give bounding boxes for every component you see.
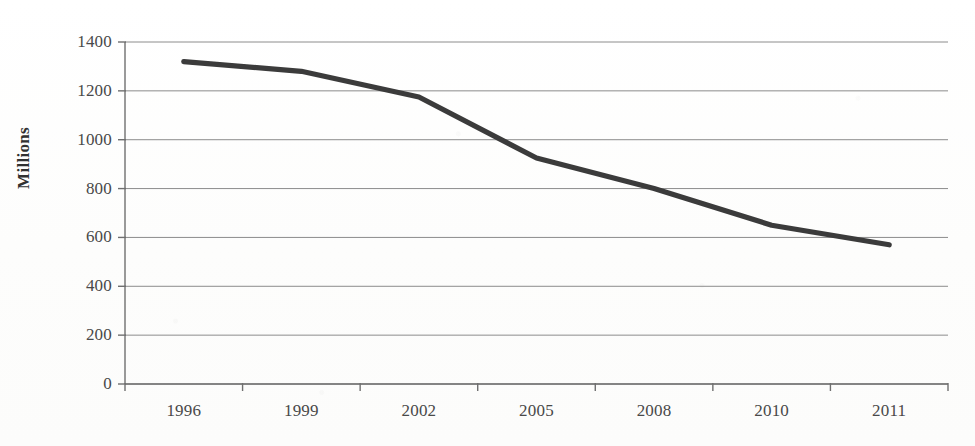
x-tick-label: 2010 xyxy=(722,402,822,419)
line-chart-figure: 0200400600800100012001400 19961999200220… xyxy=(0,0,975,446)
chart-plot-area xyxy=(0,0,975,446)
data-series-line-group xyxy=(184,62,889,245)
axis-lines-group xyxy=(125,42,948,384)
data-series-line xyxy=(184,62,889,245)
y-tick-label: 400 xyxy=(20,277,112,294)
y-tick-label: 200 xyxy=(20,326,112,343)
x-tick-label: 2008 xyxy=(604,402,704,419)
gridlines-group xyxy=(125,42,948,384)
y-tick-label: 600 xyxy=(20,228,112,245)
x-tick-label: 1999 xyxy=(251,402,351,419)
y-tick-label: 1400 xyxy=(20,33,112,50)
y-axis-title: Millions xyxy=(14,88,34,228)
y-tick-label: 0 xyxy=(20,375,112,392)
x-tick-label: 2011 xyxy=(839,402,939,419)
x-tick-label: 2005 xyxy=(487,402,587,419)
x-tick-label: 2002 xyxy=(369,402,469,419)
x-tick-label: 1996 xyxy=(134,402,234,419)
